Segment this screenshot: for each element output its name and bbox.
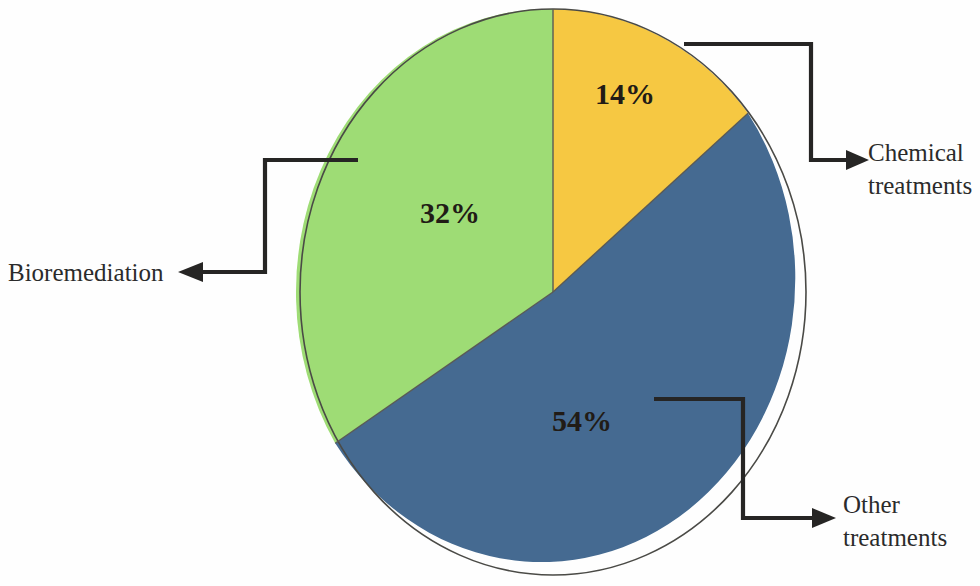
- leader-arrowhead-bioremediation: [178, 262, 203, 282]
- leader-arrowhead-chemical: [846, 150, 869, 170]
- leader-arrowhead-other: [812, 508, 836, 528]
- callout-label-chemical-line1: Chemical: [868, 139, 964, 166]
- callout-label-other-line2: treatments: [843, 524, 947, 551]
- pie-slices: [296, 9, 795, 562]
- slice-value-chemical: 14%: [595, 77, 655, 110]
- callout-label-bioremediation: Bioremediation: [8, 259, 164, 286]
- pie-chart-figure: 14% 32% 54% Chemical treatments Bioremed…: [0, 0, 980, 586]
- callout-label-other-line1: Other: [843, 491, 901, 518]
- slice-value-bioremediation: 32%: [420, 196, 480, 229]
- chart-svg: 14% 32% 54% Chemical treatments Bioremed…: [0, 0, 980, 586]
- slice-value-other: 54%: [552, 404, 612, 437]
- callout-label-chemical-line2: treatments: [868, 172, 972, 199]
